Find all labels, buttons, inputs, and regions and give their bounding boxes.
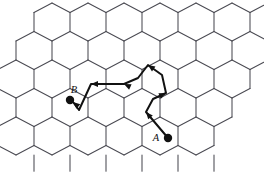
lattice-edge bbox=[178, 146, 196, 156]
lattice-edge bbox=[34, 89, 52, 99]
lattice-edge bbox=[16, 146, 34, 156]
endpoint-label-a: A bbox=[152, 132, 160, 143]
lattice-edge bbox=[250, 32, 264, 42]
endpoint-dot-b bbox=[66, 96, 74, 104]
lattice-edge bbox=[214, 60, 232, 70]
lattice-edge bbox=[106, 60, 124, 70]
lattice-edge bbox=[106, 3, 124, 13]
hexagonal-lattice bbox=[0, 3, 264, 171]
lattice-edge bbox=[214, 32, 232, 42]
lattice-edge bbox=[142, 32, 160, 42]
lattice-edge bbox=[0, 117, 16, 127]
lattice-edge bbox=[0, 146, 16, 156]
lattice-edge bbox=[214, 89, 232, 99]
lattice-edge bbox=[124, 60, 142, 70]
lattice-edge bbox=[232, 3, 250, 13]
lattice-edge bbox=[160, 32, 178, 42]
lattice-edge bbox=[70, 32, 88, 42]
lattice-edge bbox=[124, 146, 142, 156]
lattice-edge bbox=[232, 32, 250, 42]
lattice-edge bbox=[88, 32, 106, 42]
lattice-edge bbox=[0, 60, 16, 70]
endpoint-label-b: B bbox=[71, 84, 78, 95]
lattice-edge bbox=[70, 117, 88, 127]
lattice-edge bbox=[88, 117, 106, 127]
hexagonal-lattice-figure: AB bbox=[0, 0, 264, 191]
lattice-edge bbox=[52, 3, 70, 13]
figure-container: AB bbox=[0, 0, 264, 191]
lattice-edge bbox=[16, 89, 34, 99]
walk-polyline bbox=[73, 65, 168, 138]
lattice-edge bbox=[70, 146, 88, 156]
lattice-edge bbox=[250, 3, 264, 13]
lattice-edge bbox=[88, 146, 106, 156]
lattice-edge bbox=[250, 60, 264, 70]
lattice-edge bbox=[178, 3, 196, 13]
walk-path bbox=[73, 65, 168, 138]
lattice-edge bbox=[178, 117, 196, 127]
path-endpoints: AB bbox=[66, 84, 172, 143]
lattice-edge bbox=[214, 3, 232, 13]
lattice-edge bbox=[160, 117, 178, 127]
lattice-edge bbox=[178, 89, 196, 99]
lattice-edge bbox=[34, 117, 52, 127]
lattice-edge bbox=[214, 117, 232, 127]
lattice-edge bbox=[52, 117, 70, 127]
lattice-edge bbox=[124, 89, 142, 99]
lattice-edge bbox=[16, 60, 34, 70]
lattice-edge bbox=[142, 146, 160, 156]
lattice-edge bbox=[178, 32, 196, 42]
lattice-edge bbox=[34, 3, 52, 13]
lattice-edge bbox=[70, 60, 88, 70]
lattice-edge bbox=[0, 89, 16, 99]
lattice-edge bbox=[16, 117, 34, 127]
lattice-edge bbox=[196, 32, 214, 42]
lattice-edge bbox=[196, 146, 214, 156]
lattice-edge bbox=[52, 146, 70, 156]
lattice-edge bbox=[106, 117, 124, 127]
endpoint-dot-a bbox=[164, 134, 172, 142]
lattice-edge bbox=[142, 3, 160, 13]
lattice-edge bbox=[88, 60, 106, 70]
lattice-edge bbox=[34, 146, 52, 156]
arrow-head-icon bbox=[124, 84, 132, 90]
lattice-edge bbox=[70, 3, 88, 13]
lattice-edge bbox=[124, 32, 142, 42]
lattice-edge bbox=[178, 60, 196, 70]
lattice-edge bbox=[196, 60, 214, 70]
lattice-edge bbox=[88, 89, 106, 99]
lattice-edge bbox=[52, 89, 70, 99]
lattice-edge bbox=[124, 117, 142, 127]
lattice-edge bbox=[232, 89, 250, 99]
lattice-edge bbox=[106, 89, 124, 99]
lattice-edge bbox=[160, 146, 178, 156]
lattice-edge bbox=[106, 32, 124, 42]
lattice-edge bbox=[106, 146, 124, 156]
lattice-edge bbox=[16, 32, 34, 42]
lattice-edge bbox=[52, 60, 70, 70]
lattice-edge bbox=[196, 89, 214, 99]
lattice-edge bbox=[196, 3, 214, 13]
lattice-edge bbox=[124, 3, 142, 13]
lattice-edge bbox=[160, 3, 178, 13]
lattice-edge bbox=[34, 32, 52, 42]
lattice-edge bbox=[88, 3, 106, 13]
lattice-edge bbox=[196, 117, 214, 127]
lattice-edge bbox=[52, 32, 70, 42]
lattice-edge bbox=[232, 60, 250, 70]
lattice-edge bbox=[34, 60, 52, 70]
arrow-head-icon bbox=[91, 81, 98, 87]
lattice-edge bbox=[160, 60, 178, 70]
